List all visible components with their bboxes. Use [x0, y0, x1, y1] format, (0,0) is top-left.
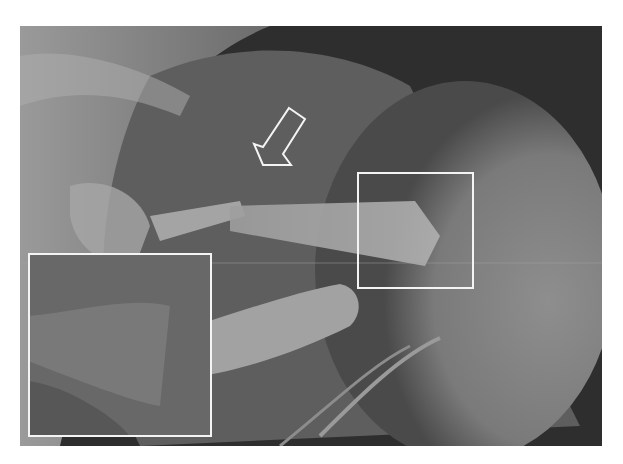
- magnified-inset-box: [28, 253, 212, 437]
- roi-box: [357, 172, 474, 289]
- radiograph-image: [20, 26, 602, 446]
